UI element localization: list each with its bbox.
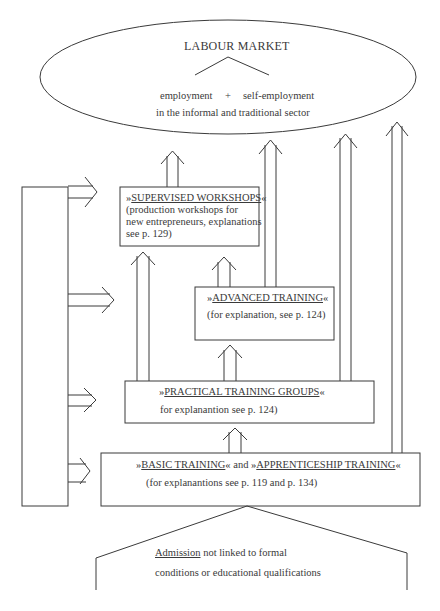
basic-training-title: »BASIC TRAINING« and »APPRENTICESHIP TRA… [136,458,401,471]
quote-close: « [395,459,400,470]
advanced-training-name: ADVANCED TRAINING [212,292,323,303]
up-arrow-practical-to-market [334,134,357,381]
supervised-workshops-name: SUPERVISED WORKSHOPS [131,192,261,203]
admission-line2: conditions or educational qualifications [155,566,321,579]
advanced-training-note: (for explanation, see p. 124) [207,308,325,321]
advanced-training-title: »ADVANCED TRAINING« [207,291,328,304]
and-connector: « and » [225,459,256,470]
practical-training-name: PRACTICAL TRAINING GROUPS [164,386,319,397]
up-arrow-basic-to-market [386,122,408,453]
up-arrow-practical-to-supervised [131,252,155,381]
self-employment-label: self-employment [243,89,314,102]
sector-label: in the informal and traditional sector [156,106,310,119]
admission-word: Admission [155,547,201,558]
right-arrow-advanced [68,287,114,313]
labour-market-title: LABOUR MARKET [184,40,290,53]
basic-training-name: BASIC TRAINING [141,459,225,470]
plus-sign: + [225,89,231,102]
left-source-box [22,187,68,506]
up-arrow-basic-to-practical [223,428,247,453]
up-arrow-practical-to-advanced [218,345,242,381]
apprenticeship-training-name: APPRENTICESHIP TRAINING [256,459,395,470]
up-arrow-advanced-to-supervised [212,257,236,287]
labour-market-branch [195,57,269,75]
right-arrow-basic [68,458,90,484]
employment-label: employment [160,89,213,102]
up-arrow-advanced-to-market [259,140,282,287]
admission-rest: not linked to formal [201,547,287,558]
supervised-workshops-line3: see p. 129) [126,227,172,240]
practical-training-note: for explanantion see p. 124) [160,403,278,416]
quote-close: « [261,192,266,203]
right-arrow-practical [68,388,96,412]
right-arrow-supervised [68,177,97,207]
quote-close: « [319,386,324,397]
diagram-canvas [0,0,440,611]
basic-training-note: (for explanantions see p. 119 and p. 134… [146,476,317,489]
quote-close: « [323,292,328,303]
practical-training-title: »PRACTICAL TRAINING GROUPS« [159,385,325,398]
up-arrow-supervised-to-market [161,151,184,187]
admission-line1: Admission not linked to formal [155,546,287,559]
